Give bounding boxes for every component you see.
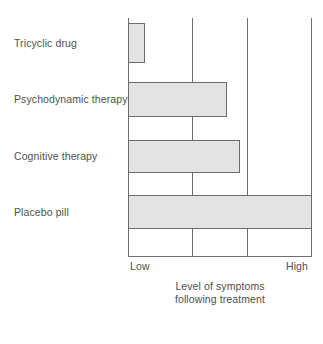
x-axis-line bbox=[128, 256, 312, 257]
x-axis-title-line-1: Level of symptoms bbox=[128, 280, 312, 293]
category-label-cognitive-therapy: Cognitive therapy bbox=[14, 150, 126, 162]
x-axis-title-line-2: following treatment bbox=[128, 293, 312, 306]
x-tick-label-high: High bbox=[286, 260, 308, 272]
x-tick-label-low: Low bbox=[130, 260, 150, 272]
bar-tricyclic-drug bbox=[128, 23, 145, 63]
bar-psychodynamic-therapy bbox=[128, 82, 227, 117]
category-label-tricyclic-drug: Tricyclic drug bbox=[14, 37, 126, 49]
category-label-psychodynamic-therapy: Psychodynamic therapy bbox=[14, 93, 126, 105]
category-label-placebo-pill: Placebo pill bbox=[14, 206, 126, 218]
bar-chart-figure: Tricyclic drug Psychodynamic therapy Cog… bbox=[0, 0, 323, 344]
x-axis-title: Level of symptoms following treatment bbox=[128, 280, 312, 305]
bar-cognitive-therapy bbox=[128, 140, 240, 173]
plot-area bbox=[128, 18, 312, 257]
bar-placebo-pill bbox=[128, 195, 312, 229]
